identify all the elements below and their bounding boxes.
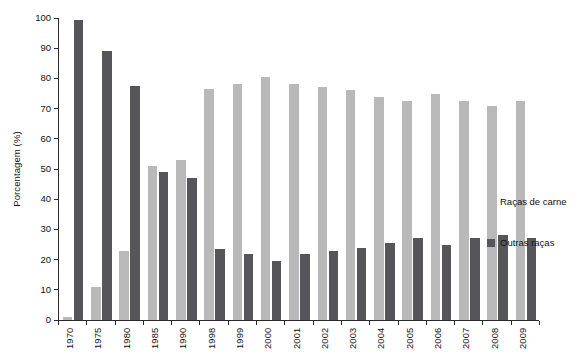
y-axis-tick: 20	[25, 254, 58, 266]
x-axis-tick-label: 2009	[518, 328, 532, 362]
y-axis-tick: 100	[25, 12, 58, 24]
y-axis-tick-label: 60	[40, 133, 51, 145]
x-axis-tick-mark	[284, 321, 285, 325]
x-axis-tick-mark	[115, 321, 116, 325]
bar	[74, 20, 84, 320]
x-axis-tick-label: 2000	[263, 328, 277, 362]
x-axis-tick-mark	[482, 321, 483, 325]
bars-layer	[58, 18, 539, 320]
x-axis-tick-mark	[426, 321, 427, 325]
bar	[329, 251, 339, 320]
bar	[402, 101, 412, 320]
y-axis-tick-label: 100	[35, 12, 51, 24]
bar	[91, 287, 101, 320]
bar	[318, 87, 328, 320]
y-axis-tick: 10	[25, 284, 58, 296]
chart-legend: Raças de carne Outras raças	[487, 196, 583, 278]
bar	[119, 251, 129, 320]
bar	[357, 248, 367, 320]
x-axis-tick-label: 2002	[320, 328, 334, 362]
x-axis-tick-mark	[313, 321, 314, 325]
y-axis-tick: 70	[25, 103, 58, 115]
bar	[204, 89, 214, 320]
bar	[442, 245, 452, 321]
x-axis-tick-label: 2006	[433, 328, 447, 362]
x-axis-tick-label: 1999	[235, 328, 249, 362]
legend-item-racas-de-carne: Raças de carne	[487, 196, 583, 208]
x-axis-tick-mark	[143, 321, 144, 325]
bar	[187, 178, 197, 320]
bar	[346, 90, 356, 320]
y-axis-tick-label: 50	[40, 163, 51, 175]
legend-swatch-icon	[487, 198, 495, 206]
legend-item-label: Outras raças	[500, 237, 554, 249]
x-axis-tick-mark	[341, 321, 342, 325]
bar	[431, 94, 441, 321]
x-axis-line	[58, 320, 539, 321]
bar	[148, 166, 158, 320]
y-axis-tick-label: 40	[40, 193, 51, 205]
y-axis-tick-label: 0	[46, 314, 51, 326]
bar	[300, 254, 310, 320]
y-axis-tick: 90	[25, 42, 58, 54]
x-axis-tick-mark	[369, 321, 370, 325]
bar	[385, 243, 395, 320]
x-axis-tick-label: 2007	[461, 328, 475, 362]
y-axis-tick-label: 70	[40, 103, 51, 115]
x-axis-tick-mark	[256, 321, 257, 325]
bar	[176, 160, 186, 320]
x-axis-tick-mark	[171, 321, 172, 325]
x-axis-tick-label: 1970	[65, 328, 79, 362]
bar	[261, 77, 271, 320]
x-axis-tick-mark	[454, 321, 455, 325]
bar	[289, 84, 299, 320]
x-axis-tick-label: 1990	[178, 328, 192, 362]
y-axis-tick: 60	[25, 133, 58, 145]
y-axis-title: Porcentagem (%)	[8, 18, 26, 320]
x-axis-tick-mark	[199, 321, 200, 325]
bar	[159, 172, 169, 320]
y-axis-tick: 30	[25, 223, 58, 235]
x-axis-tick-label: 2008	[490, 328, 504, 362]
bar	[470, 238, 480, 320]
bar	[272, 261, 282, 320]
bar	[459, 101, 469, 320]
x-axis-tick-mark	[398, 321, 399, 325]
x-axis-tick-label: 1998	[207, 328, 221, 362]
bar	[244, 254, 254, 320]
legend-swatch-icon	[487, 239, 495, 247]
x-axis-tick-mark	[58, 321, 59, 325]
x-axis-tick-mark	[86, 321, 87, 325]
bar	[130, 86, 140, 320]
y-axis-tick-label: 90	[40, 42, 51, 54]
y-axis-tick: 80	[25, 72, 58, 84]
legend-item-outras-racas: Outras raças	[487, 237, 583, 249]
y-axis-tick-label: 30	[40, 223, 51, 235]
y-axis-tick-label: 80	[40, 72, 51, 84]
x-axis-tick-label: 1985	[150, 328, 164, 362]
x-axis-tick-label: 1975	[93, 328, 107, 362]
bar	[102, 51, 112, 320]
y-axis-tick: 0	[25, 314, 58, 326]
y-axis-tick-label: 10	[40, 284, 51, 296]
plot-area: 0102030405060708090100 19701975198019851…	[58, 18, 539, 320]
bar	[374, 97, 384, 320]
y-axis-tick: 50	[25, 163, 58, 175]
legend-item-label: Raças de carne	[500, 196, 567, 208]
x-axis-tick-label: 1980	[122, 328, 136, 362]
bar	[215, 249, 225, 320]
x-axis-tick-label: 2003	[348, 328, 362, 362]
bar	[233, 84, 243, 320]
bar	[413, 238, 423, 320]
x-axis-tick-mark	[228, 321, 229, 325]
y-axis-tick: 40	[25, 193, 58, 205]
x-axis-tick-mark	[511, 321, 512, 325]
y-axis-tick-label: 20	[40, 254, 51, 266]
x-axis-tick-label: 2001	[292, 328, 306, 362]
bar-chart: Porcentagem (%) 0102030405060708090100 1…	[0, 0, 583, 362]
x-axis-tick-mark	[539, 321, 540, 325]
x-axis-tick-label: 2005	[405, 328, 419, 362]
bar	[63, 317, 73, 320]
x-axis-tick-label: 2004	[376, 328, 390, 362]
